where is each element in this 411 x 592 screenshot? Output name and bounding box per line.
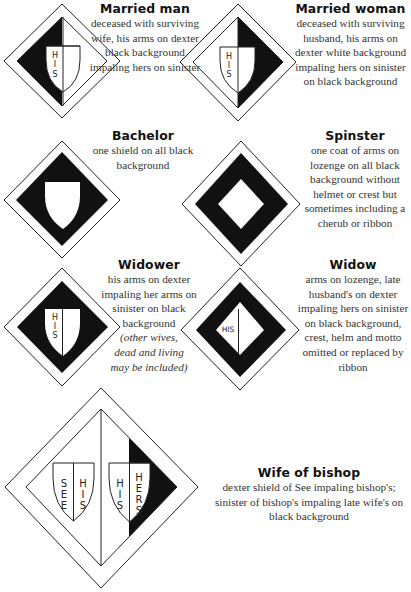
shield-letter: H (116, 478, 124, 489)
hatchment-wife-of-bishop (5, 388, 198, 588)
shield-letter: I (228, 61, 230, 70)
caption-wife-of-bishop: Wife of bishop dexter shield of See impa… (207, 465, 411, 524)
shield-letter: S (136, 505, 142, 516)
caption-widower: Widower his arms on dexter impaling her … (94, 257, 204, 374)
shield-letter: H (52, 313, 58, 322)
caption-title: Widow (295, 257, 411, 272)
caption-description: deceased with surviving husband, his arm… (290, 16, 411, 89)
lozenge-label-widow: HIS (222, 325, 235, 334)
caption-description: deceased with surviving wife, his arms o… (89, 16, 201, 74)
shield-letter: R (136, 494, 143, 505)
shield-letter: I (119, 489, 122, 500)
caption-description: dexter shield of See impaling bishop's; … (207, 480, 411, 524)
caption-title: Spinster (303, 128, 407, 143)
caption-title: Bachelor (78, 128, 208, 143)
shield-letter: H (79, 478, 87, 489)
shield-letter: S (117, 500, 123, 511)
shield-letter: E (61, 500, 67, 511)
caption-married-woman: Married woman deceased with surviving hu… (290, 1, 411, 89)
caption-title: Widower (94, 257, 204, 272)
shield-letter: E (61, 489, 67, 500)
shield-letter: H (52, 51, 58, 60)
shield-letter: S (226, 70, 231, 79)
caption-title: Married man (89, 1, 201, 16)
caption-description: one coat of arms on lozenge on all black… (303, 143, 407, 231)
caption-description: his arms on dexter impaling her arms on … (94, 272, 204, 330)
shield-letter: S (52, 70, 57, 79)
shield-letter: I (54, 322, 56, 331)
caption-description: one shield on all black background (78, 143, 208, 172)
shield-letter: H (226, 52, 232, 61)
caption-title: Married woman (290, 1, 411, 16)
shield-letter: H (135, 472, 143, 483)
shield-letter: S (80, 500, 86, 511)
caption-description: arms on lozenge, late husband's on dexte… (295, 272, 411, 374)
caption-spinster: Spinster one coat of arms on lozenge on … (303, 128, 407, 231)
shield-letter: I (82, 489, 85, 500)
shield-letter: E (136, 483, 142, 494)
caption-title: Wife of bishop (207, 465, 411, 480)
caption-widow: Widow arms on lozenge, late husband's on… (295, 257, 411, 374)
caption-bachelor: Bachelor one shield on all black backgro… (78, 128, 208, 172)
shield-letter: I (54, 60, 56, 69)
caption-note: (other wives, dead and living may be inc… (94, 330, 204, 374)
caption-married-man: Married man deceased with surviving wife… (89, 1, 201, 74)
shield-letter: S (52, 331, 57, 340)
shield-letter: S (61, 478, 67, 489)
